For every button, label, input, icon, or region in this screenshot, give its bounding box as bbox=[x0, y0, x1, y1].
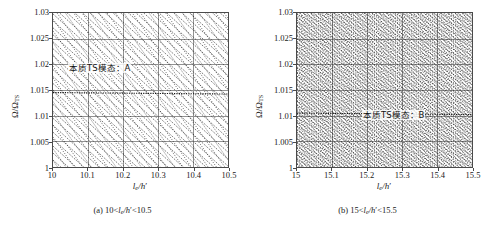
x-tick-mark bbox=[194, 168, 195, 171]
x-tick-label: 15 bbox=[292, 170, 301, 180]
eigenvalue-branch bbox=[297, 13, 472, 21]
x-tick-mark bbox=[331, 168, 332, 171]
y-tick-mark bbox=[293, 38, 296, 39]
eigenvalue-branch bbox=[53, 153, 228, 167]
x-tick-mark bbox=[367, 168, 368, 171]
figure-eigenvalue-branches: 本质TS模态：A 11.0051.011.0151.021.0251.03 10… bbox=[0, 0, 490, 233]
x-tick-label: 10.2 bbox=[115, 170, 130, 180]
y-tick-label: 1.03 bbox=[34, 8, 49, 17]
x-tick-label: 15.4 bbox=[430, 170, 445, 180]
subcaption-b-suffix: <15.5 bbox=[377, 205, 397, 215]
plot-area-a bbox=[52, 12, 229, 168]
y-tick-label: 1.025 bbox=[274, 34, 293, 43]
eigenvalue-branch bbox=[297, 93, 472, 167]
y-tick-label: 1.01 bbox=[278, 112, 293, 121]
eigenvalue-branch bbox=[53, 139, 228, 167]
y-tick-mark bbox=[293, 64, 296, 65]
branch-curves-a bbox=[53, 13, 228, 167]
eigenvalue-branch bbox=[297, 13, 472, 82]
x-tick-label: 15.1 bbox=[324, 170, 339, 180]
y-tick-label: 1.02 bbox=[278, 60, 293, 69]
x-tick-mark bbox=[438, 168, 439, 171]
x-tick-label: 10 bbox=[48, 170, 57, 180]
panel-a: 本质TS模态：A 11.0051.011.0151.021.0251.03 10… bbox=[0, 0, 245, 233]
subcaption-a: (a) 10<le/h′<10.5 bbox=[0, 205, 245, 218]
y-tick-label: 1.005 bbox=[30, 138, 49, 147]
eigenvalue-branch bbox=[53, 43, 228, 167]
y-tick-mark bbox=[293, 12, 296, 13]
x-axis-label-b: le/h′ bbox=[377, 181, 391, 191]
y-tick-mark bbox=[293, 90, 296, 91]
y-tick-label: 1.01 bbox=[34, 112, 49, 121]
eigenvalue-branch bbox=[53, 42, 228, 167]
eigenvalue-branch bbox=[297, 13, 472, 76]
y-tick-label: 1.015 bbox=[30, 86, 49, 95]
y-axis-label-b: Ω/ΩTS bbox=[254, 95, 264, 118]
subcaption-b: (b) 15<le/h′<15.5 bbox=[245, 205, 490, 218]
y-axis-ticks-a: 11.0051.011.0151.021.0251.03 bbox=[3, 12, 49, 168]
y-tick-label: 1.02 bbox=[34, 60, 49, 69]
panel-b: 本质TS模态：B 11.0051.011.0151.021.0251.03 15… bbox=[245, 0, 490, 233]
x-tick-mark bbox=[296, 168, 297, 171]
y-axis-label-sub-b: TS bbox=[257, 95, 264, 103]
x-tick-label: 10.4 bbox=[186, 170, 201, 180]
x-tick-mark bbox=[473, 168, 474, 171]
eigenvalue-branch bbox=[53, 13, 228, 148]
y-tick-mark bbox=[293, 142, 296, 143]
y-tick-mark bbox=[49, 142, 52, 143]
y-axis-ticks-b: 11.0051.011.0151.021.0251.03 bbox=[247, 12, 293, 168]
eigenvalue-branch bbox=[53, 13, 228, 159]
eigenvalue-branch bbox=[297, 13, 472, 101]
x-tick-mark bbox=[402, 168, 403, 171]
x-tick-mark bbox=[52, 168, 53, 171]
x-axis-label-prime-a: ′ bbox=[145, 181, 147, 191]
eigenvalue-branch bbox=[53, 13, 228, 97]
x-tick-mark bbox=[229, 168, 230, 171]
x-tick-mark bbox=[87, 168, 88, 171]
x-tick-label: 15.2 bbox=[359, 170, 374, 180]
y-tick-label: 1.005 bbox=[274, 138, 293, 147]
eigenvalue-branch bbox=[53, 13, 228, 160]
y-tick-mark bbox=[49, 12, 52, 13]
x-tick-label: 15.5 bbox=[466, 170, 481, 180]
eigenvalue-branch bbox=[53, 13, 228, 34]
eigenvalue-branch bbox=[53, 13, 228, 136]
eigenvalue-branch bbox=[297, 136, 472, 167]
eigenvalue-branch bbox=[53, 13, 228, 110]
plot-area-b bbox=[296, 12, 473, 168]
y-tick-label: 1.025 bbox=[30, 34, 49, 43]
x-tick-label: 10.5 bbox=[222, 170, 237, 180]
y-tick-label: 1.015 bbox=[274, 86, 293, 95]
y-axis-label-text-a: Ω/Ω bbox=[10, 102, 20, 118]
y-axis-label-sub-a: TS bbox=[13, 95, 20, 103]
eigenvalue-branch bbox=[297, 29, 472, 167]
annotation-mode-b: 本质TS模态：B bbox=[362, 110, 425, 120]
branch-curves-b bbox=[297, 13, 472, 167]
x-axis-label-a: le/h′ bbox=[133, 181, 147, 191]
eigenvalue-branch bbox=[53, 13, 228, 48]
x-tick-label: 15.3 bbox=[395, 170, 410, 180]
eigenvalue-branch bbox=[53, 13, 228, 30]
y-tick-mark bbox=[49, 90, 52, 91]
eigenvalue-branch bbox=[297, 13, 472, 43]
x-axis-label-prime-b: ′ bbox=[389, 181, 391, 191]
y-tick-mark bbox=[293, 116, 296, 117]
x-tick-label: 10.1 bbox=[80, 170, 95, 180]
annotation-mode-a: 本质TS模态：A bbox=[68, 63, 131, 73]
y-tick-mark bbox=[49, 116, 52, 117]
x-tick-mark bbox=[158, 168, 159, 171]
x-tick-mark bbox=[123, 168, 124, 171]
subcaption-a-prefix: (a) 10< bbox=[93, 205, 118, 215]
subcaption-a-suffix: <10.5 bbox=[132, 205, 152, 215]
y-axis-label-text-b: Ω/Ω bbox=[254, 102, 264, 118]
eigenvalue-branch bbox=[53, 13, 228, 18]
y-axis-label-a: Ω/ΩTS bbox=[10, 95, 20, 118]
eigenvalue-branch bbox=[297, 13, 472, 151]
subcaption-b-prefix: (b) 15< bbox=[338, 205, 363, 215]
eigenvalue-branch bbox=[53, 13, 228, 152]
eigenvalue-branch bbox=[53, 13, 228, 103]
x-tick-label: 10.3 bbox=[151, 170, 166, 180]
y-tick-mark bbox=[49, 64, 52, 65]
eigenvalue-branch bbox=[297, 13, 472, 37]
eigenvalue-branch bbox=[297, 135, 472, 167]
